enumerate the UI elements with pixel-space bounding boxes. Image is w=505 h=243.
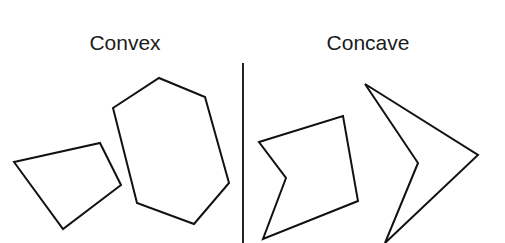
convex-quadrilateral [14, 143, 121, 229]
concave-chevron [365, 84, 478, 243]
convex-hexagon [113, 78, 229, 224]
polygon-diagram [0, 0, 505, 243]
concave-notched-pentagon [259, 116, 358, 239]
